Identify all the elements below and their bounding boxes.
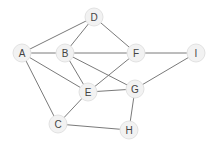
edge-c-h bbox=[58, 124, 129, 130]
node-label: B bbox=[62, 48, 69, 59]
node-a: A bbox=[13, 44, 31, 62]
node-f: F bbox=[127, 44, 145, 62]
node-b: B bbox=[56, 44, 74, 62]
node-label: I bbox=[195, 48, 198, 59]
graph-canvas: ABCDEFGHI bbox=[0, 0, 217, 147]
node-g: G bbox=[126, 80, 144, 98]
node-h: H bbox=[120, 121, 138, 139]
node-label: A bbox=[19, 48, 26, 59]
edge-i-g bbox=[135, 53, 196, 89]
node-i: I bbox=[187, 44, 205, 62]
node-label: F bbox=[133, 48, 139, 59]
edges-layer bbox=[22, 17, 196, 130]
node-d: D bbox=[85, 8, 103, 26]
node-label: C bbox=[54, 119, 61, 130]
node-label: G bbox=[131, 84, 139, 95]
node-label: E bbox=[85, 87, 92, 98]
node-label: H bbox=[125, 125, 132, 136]
node-e: E bbox=[79, 83, 97, 101]
node-c: C bbox=[49, 115, 67, 133]
nodes-layer: ABCDEFGHI bbox=[13, 8, 205, 139]
node-label: D bbox=[90, 12, 97, 23]
